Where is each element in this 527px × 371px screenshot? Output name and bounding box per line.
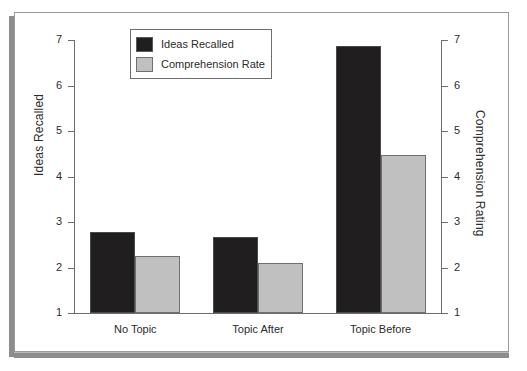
y-axis-left-tick: [68, 313, 74, 314]
bar: [90, 232, 135, 313]
figure-shadow-bottom: [14, 352, 509, 358]
bar: [336, 46, 381, 313]
y-axis-right-tick-label: 2: [454, 262, 460, 273]
y-axis-left-tick: [68, 131, 74, 132]
plot-area: 7654321 7654321 No TopicTopic AfterTopic…: [74, 40, 442, 313]
bar: [381, 155, 426, 313]
y-axis-left-tick-label: 6: [56, 80, 62, 91]
y-axis-right-tick: [442, 40, 448, 41]
y-axis-right-tick: [442, 313, 448, 314]
y-axis-left-title: Ideas Recalled: [32, 94, 46, 176]
y-axis-left-tick: [68, 177, 74, 178]
y-axis-right-title: Comprehension Rating: [473, 110, 487, 237]
x-axis-category-label: No Topic: [114, 323, 157, 335]
y-axis-left-tick: [68, 86, 74, 87]
y-axis-right-tick: [442, 131, 448, 132]
x-axis-line: [74, 313, 442, 314]
y-axis-left-line: [74, 40, 75, 314]
y-axis-right-tick-label: 6: [454, 80, 460, 91]
x-axis-category-label: Topic After: [232, 323, 283, 335]
y-axis-right-tick: [442, 177, 448, 178]
y-axis-left-tick-label: 3: [56, 216, 62, 227]
y-axis-left-tick: [68, 222, 74, 223]
x-axis-category-label: Topic Before: [350, 323, 411, 335]
y-axis-right-tick-label: 1: [454, 307, 460, 318]
y-axis-left-tick-label: 1: [56, 307, 62, 318]
y-axis-right-tick-label: 5: [454, 125, 460, 136]
y-axis-right-tick-label: 7: [454, 34, 460, 45]
y-axis-right-tick: [442, 222, 448, 223]
bar: [258, 263, 303, 313]
y-axis-left-tick: [68, 268, 74, 269]
y-axis-left-tick-label: 7: [56, 34, 62, 45]
y-axis-left-tick-label: 4: [56, 171, 62, 182]
y-axis-left-tick-label: 5: [56, 125, 62, 136]
bar: [135, 256, 180, 313]
y-axis-right-tick-label: 3: [454, 216, 460, 227]
y-axis-right-tick: [442, 86, 448, 87]
y-axis-left-tick-label: 2: [56, 262, 62, 273]
y-axis-left-tick: [68, 40, 74, 41]
bar: [213, 237, 258, 313]
y-axis-right-tick-label: 4: [454, 171, 460, 182]
y-axis-right-tick: [442, 268, 448, 269]
figure-root: Ideas Recalled Comprehension Rating Idea…: [0, 0, 527, 371]
